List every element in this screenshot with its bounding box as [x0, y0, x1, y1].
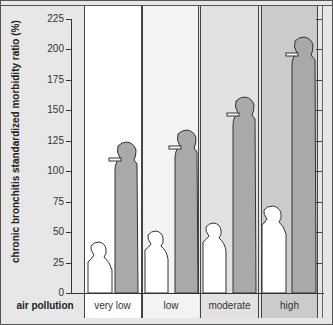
nonsmoker-very-low — [88, 242, 112, 293]
right-tick — [316, 19, 322, 20]
y-tick-label: 100 — [30, 166, 64, 176]
y-tick-125 — [66, 141, 72, 142]
right-tick — [316, 202, 322, 203]
x-axis-title: air pollution — [6, 294, 84, 318]
smoker-moderate — [233, 97, 256, 293]
category-label-moderate: moderate — [201, 294, 258, 318]
pictogram-chart: chronic bronchitis standardized morbidit… — [0, 0, 333, 325]
right-tick — [316, 263, 322, 264]
y-tick-label: 200 — [30, 44, 64, 54]
nonsmoker-low — [145, 231, 168, 293]
y-tick-25 — [66, 263, 72, 264]
y-tick-50 — [66, 232, 72, 233]
y-tick-150 — [66, 110, 72, 111]
smoker-high — [292, 37, 316, 293]
smoker-very-low — [115, 142, 138, 293]
y-tick-75 — [66, 202, 72, 203]
y-tick-175 — [66, 80, 72, 81]
category-label-very-low: very low — [85, 294, 140, 318]
y-tick-label: 50 — [30, 227, 64, 237]
y-tick-200 — [66, 49, 72, 50]
category-label-high: high — [262, 294, 317, 318]
right-tick — [316, 232, 322, 233]
right-tick — [316, 141, 322, 142]
right-axis — [322, 6, 323, 318]
y-tick-label: 75 — [30, 197, 64, 207]
y-tick-label: 175 — [30, 75, 64, 85]
y-tick-100 — [66, 171, 72, 172]
right-tick — [316, 110, 322, 111]
y-tick-label: 25 — [30, 258, 64, 268]
y-tick-label: 150 — [30, 105, 64, 115]
y-tick-label: 225 — [30, 14, 64, 24]
y-tick-225 — [66, 19, 72, 20]
y-axis — [71, 19, 72, 294]
category-label-low: low — [143, 294, 199, 318]
smoker-low — [175, 130, 198, 293]
right-tick — [316, 80, 322, 81]
nonsmoker-moderate — [203, 223, 226, 293]
right-tick — [316, 49, 322, 50]
right-tick — [316, 171, 322, 172]
y-tick-label: 125 — [30, 136, 64, 146]
nonsmoker-high — [262, 206, 286, 293]
